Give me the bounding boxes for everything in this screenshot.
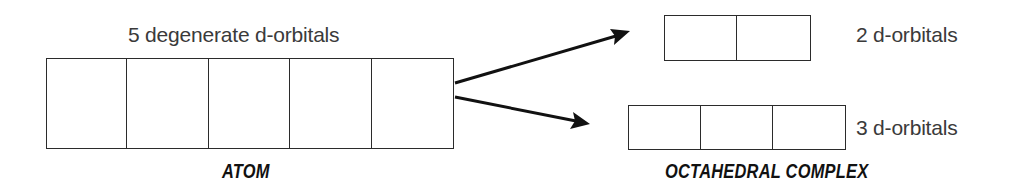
lower-set-label: 3 d-orbitals bbox=[856, 117, 957, 138]
orbital-box bbox=[664, 15, 738, 61]
orbital-box bbox=[772, 105, 846, 150]
upper-set-label: 2 d-orbitals bbox=[856, 24, 957, 45]
arrow-to-upper-set-icon bbox=[455, 29, 630, 83]
octahedral-complex-caption: OCTAHEDRAL COMPLEX bbox=[665, 161, 868, 181]
arrow-to-lower-set-icon bbox=[455, 97, 590, 129]
upper-orbital-set bbox=[664, 15, 811, 61]
orbital-box bbox=[700, 105, 774, 150]
orbital-splitting-diagram: 5 degenerate d-orbitals ATOM 2 d-orbital… bbox=[0, 0, 1013, 193]
orbital-box bbox=[628, 105, 702, 150]
lower-orbital-set bbox=[628, 105, 846, 150]
orbital-box bbox=[736, 15, 811, 61]
